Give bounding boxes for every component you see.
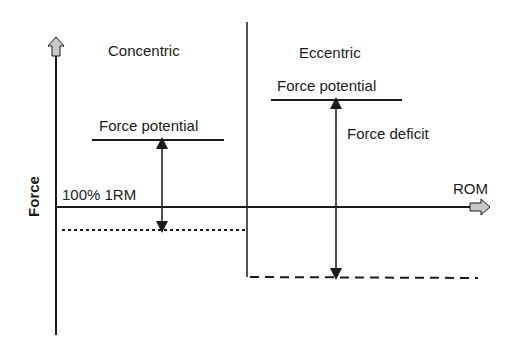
eccentric-dashed-line [250, 277, 478, 278]
y-axis-label: Force [25, 176, 42, 217]
eccentric-force-potential-label: Force potential [277, 77, 376, 94]
x-axis-label: ROM [453, 180, 488, 197]
baseline-label: 100% 1RM [62, 186, 136, 203]
force-deficit-label: Force deficit [347, 125, 429, 142]
y-axis-arrow-icon [48, 37, 64, 56]
x-axis-arrow-icon [470, 199, 490, 215]
concentric-title: Concentric [108, 42, 180, 59]
diagram-canvas [0, 0, 516, 355]
concentric-force-potential-label: Force potential [99, 117, 198, 134]
eccentric-title: Eccentric [299, 44, 361, 61]
